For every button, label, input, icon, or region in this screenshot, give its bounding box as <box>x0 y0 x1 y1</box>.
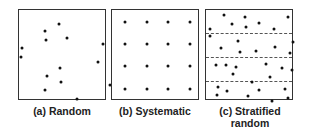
sample-point <box>20 56 23 59</box>
caption-stratified-random: (c) Stratified random <box>200 105 300 129</box>
sample-point <box>291 69 294 72</box>
sample-point <box>146 88 149 91</box>
sample-point <box>217 86 220 89</box>
sample-point <box>235 66 238 69</box>
caption-random-line1: (a) Random <box>12 105 112 117</box>
sample-point <box>58 23 61 26</box>
sample-point <box>231 23 234 26</box>
stratum-boundary-line <box>206 57 292 58</box>
sample-point <box>102 43 105 46</box>
sample-point <box>167 65 170 68</box>
sample-point <box>46 75 49 78</box>
sample-point <box>225 64 228 67</box>
sample-point <box>97 61 100 64</box>
sample-point <box>167 21 170 24</box>
sample-point <box>44 30 47 33</box>
sample-point <box>209 35 212 38</box>
caption-stratified-line1: (c) Stratified <box>200 105 300 117</box>
sample-point <box>216 94 219 97</box>
sample-point <box>124 21 127 24</box>
sample-point <box>146 65 149 68</box>
sample-point <box>258 89 261 92</box>
stratum-boundary-line <box>206 81 292 82</box>
sample-point <box>209 28 212 31</box>
sample-point <box>124 43 127 46</box>
panel-random <box>18 9 106 100</box>
sample-point <box>124 88 127 91</box>
sample-point <box>247 95 250 98</box>
sample-point <box>76 98 79 101</box>
sample-point <box>189 65 192 68</box>
sample-point <box>189 21 192 24</box>
sample-point <box>167 88 170 91</box>
sample-point <box>274 46 277 49</box>
sample-point <box>269 76 272 79</box>
sample-point <box>237 40 240 43</box>
sample-point <box>189 88 192 91</box>
sample-point <box>124 65 127 68</box>
caption-systematic-line1: (b) Systematic <box>105 105 205 117</box>
caption-stratified-line2: random <box>200 117 300 129</box>
stratum-boundary-line <box>206 33 292 34</box>
sample-point <box>226 90 229 93</box>
sample-point <box>289 52 292 55</box>
sample-point <box>255 50 258 53</box>
panel-stratified-random <box>205 9 293 100</box>
sample-point <box>21 47 24 50</box>
sample-point <box>146 43 149 46</box>
sample-point <box>146 21 149 24</box>
sample-point <box>281 67 284 70</box>
sample-point <box>223 14 226 17</box>
sample-point <box>232 73 235 76</box>
sample-point <box>251 81 254 84</box>
sample-point <box>244 16 247 19</box>
sample-point <box>258 22 261 25</box>
sample-point <box>265 63 268 66</box>
sample-point <box>215 64 218 67</box>
sample-point <box>273 28 276 31</box>
sample-point <box>271 100 274 103</box>
sample-point <box>44 89 47 92</box>
sample-point <box>287 16 290 19</box>
sample-point <box>167 43 170 46</box>
sample-point <box>239 51 242 54</box>
sample-point <box>189 43 192 46</box>
sample-point <box>287 97 290 100</box>
panel-systematic <box>111 9 199 100</box>
sample-point <box>245 26 248 29</box>
caption-random: (a) Random <box>12 105 112 117</box>
sample-point <box>66 37 69 40</box>
sample-point <box>220 47 223 50</box>
sample-point <box>45 39 48 42</box>
sample-point <box>284 88 287 91</box>
sample-point <box>59 67 62 70</box>
caption-systematic: (b) Systematic <box>105 105 205 117</box>
sample-point <box>292 41 295 44</box>
sample-point <box>60 81 63 84</box>
